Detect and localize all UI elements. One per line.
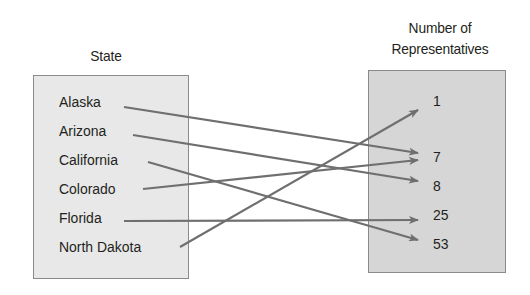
domain-item-alaska: Alaska bbox=[59, 93, 101, 111]
domain-title: State bbox=[66, 46, 147, 65]
range-item-7: 7 bbox=[433, 148, 441, 166]
domain-item-florida: Florida bbox=[59, 209, 102, 227]
domain-item-california: California bbox=[59, 151, 118, 169]
range-item-1: 1 bbox=[433, 92, 441, 110]
range-item-53: 53 bbox=[433, 235, 449, 253]
range-item-25: 25 bbox=[433, 206, 449, 224]
domain-item-north-dakota: North Dakota bbox=[59, 238, 141, 256]
range-title-line1: Number of bbox=[376, 18, 505, 37]
range-item-8: 8 bbox=[433, 177, 441, 195]
range-title-line2: Representatives bbox=[376, 39, 505, 58]
domain-item-arizona: Arizona bbox=[59, 122, 106, 140]
domain-item-colorado: Colorado bbox=[59, 180, 116, 198]
